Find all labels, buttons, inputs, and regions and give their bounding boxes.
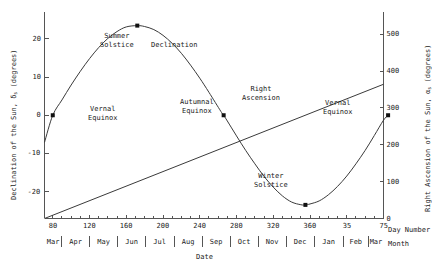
y-tick-label-right: 500 bbox=[387, 30, 400, 38]
month-label: May bbox=[97, 238, 110, 246]
marker-label: VernalEquinox bbox=[88, 105, 118, 122]
x-tick-label: 120 bbox=[83, 222, 96, 230]
marker-label-line: Autumnal bbox=[180, 98, 214, 107]
marker-label-line: Solstice bbox=[254, 181, 288, 190]
marker-label-line: Equinox bbox=[88, 114, 118, 123]
month-label: Oct bbox=[238, 238, 251, 246]
month-label: Sep bbox=[210, 238, 223, 246]
month-label: Mar bbox=[370, 238, 383, 246]
month-label: Nov bbox=[266, 238, 279, 246]
y-tick-label-left: 10 bbox=[33, 73, 41, 81]
y-axis-right-title-text: Right Ascension of the Sun, αs (degrees) bbox=[424, 45, 432, 212]
marker-label-line: Vernal bbox=[88, 105, 118, 114]
x-tick-label: 320 bbox=[267, 222, 280, 230]
x-tick-label: 240 bbox=[193, 222, 206, 230]
y-tick-label-left: 0 bbox=[37, 111, 41, 119]
y-axis-right-title: Right Ascension of the Sun, αs (degrees) bbox=[424, 45, 432, 212]
y-tick-label-left: -10 bbox=[28, 149, 41, 157]
x-tick-label: 200 bbox=[157, 222, 170, 230]
marker-label-line: Solstice bbox=[100, 41, 134, 50]
x-tick-label: 35 bbox=[343, 222, 351, 230]
marker-label: VernalEquinox bbox=[323, 99, 353, 116]
month-label: Jan bbox=[322, 238, 335, 246]
marker-label-line: Equinox bbox=[323, 108, 353, 117]
y-axis-left-title: Declination of the Sun, δs (degrees) bbox=[10, 49, 18, 200]
curve-label: RightAscension bbox=[242, 85, 280, 102]
marker-label-line: Summer bbox=[100, 32, 134, 41]
chart-labels-layer: 80120160200240280320360357520100-10-2050… bbox=[0, 0, 432, 269]
chart-figure: 80120160200240280320360357520100-10-2050… bbox=[0, 0, 432, 269]
y-tick-label-right: 0 bbox=[387, 215, 391, 223]
day-number-caption: Day Number bbox=[388, 226, 430, 234]
curve-label: Declination bbox=[151, 41, 197, 49]
month-label: Aug bbox=[182, 238, 195, 246]
y-axis-left-title-text: Declination of the Sun, δs (degrees) bbox=[10, 49, 18, 200]
marker-label-line: Equinox bbox=[180, 107, 214, 116]
month-label: Jun bbox=[125, 238, 138, 246]
y-tick-label-left: -20 bbox=[28, 188, 41, 196]
x-tick-label: 360 bbox=[304, 222, 317, 230]
month-label: Jul bbox=[153, 238, 166, 246]
y-tick-label-left: 20 bbox=[33, 35, 41, 43]
y-tick-label-right: 300 bbox=[387, 104, 400, 112]
x-tick-label: 280 bbox=[230, 222, 243, 230]
x-tick-label: 75 bbox=[380, 222, 388, 230]
y-tick-label-right: 200 bbox=[387, 141, 400, 149]
month-label: Mar bbox=[47, 238, 60, 246]
y-tick-label-right: 100 bbox=[387, 178, 400, 186]
month-caption: Month bbox=[388, 240, 409, 248]
month-label: Apr bbox=[69, 238, 82, 246]
marker-label-line: Vernal bbox=[323, 99, 353, 108]
marker-label: SummerSolstice bbox=[100, 32, 134, 49]
marker-label-line: Winter bbox=[254, 172, 288, 181]
marker-label: WinterSolstice bbox=[254, 172, 288, 189]
month-label: Dec bbox=[294, 238, 307, 246]
marker-label: AutumnalEquinox bbox=[180, 98, 214, 115]
curve-label-line: Right bbox=[242, 85, 280, 94]
x-axis-title: Date bbox=[196, 253, 213, 261]
x-tick-label: 80 bbox=[49, 222, 57, 230]
y-tick-label-right: 400 bbox=[387, 67, 400, 75]
curve-label-line: Ascension bbox=[242, 94, 280, 103]
month-label: Feb bbox=[349, 238, 362, 246]
x-tick-label: 160 bbox=[120, 222, 133, 230]
